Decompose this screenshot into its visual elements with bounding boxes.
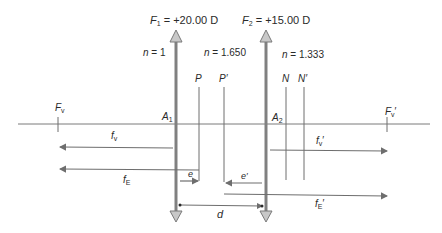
n-value: = 1 [149,47,166,58]
power-value: = +20.00 D [161,14,219,26]
back-focal-label: Fv′ [385,107,396,118]
d-label: d [217,209,223,220]
lens-1-top-arrowhead-icon [170,30,182,42]
power-symbol: F [150,14,157,26]
fv-prime-label: fv′ [316,136,324,147]
front-focal-label: Fv [55,103,65,114]
power-value: = +15.00 D [253,14,311,26]
power-symbol: F [242,14,249,26]
vertex-subscript: 1 [169,116,173,123]
label-P-prime: P′ [219,74,228,84]
lens-2-bottom-arrowhead-icon [260,211,272,222]
fE-prime-arrow [224,194,387,196]
n-middle-label: n = 1.650 [204,48,246,58]
vertex-A1-label: A1 [162,112,173,123]
fv-arrow [60,147,173,148]
lens-1-bottom-arrowhead-icon [170,211,182,222]
n-value: = 1.333 [288,49,324,60]
fv-label: fv [111,131,117,142]
n-value: = 1.650 [210,47,246,58]
n-right-label: n = 1.333 [282,50,324,60]
focal-prime: ′ [395,106,397,117]
vertex-subscript: 2 [279,117,283,124]
vertex-A2-label: A2 [272,113,283,124]
distance-subscript: v [114,135,118,142]
n-left-label: n = 1 [143,48,166,58]
vertex-symbol: A [162,111,169,122]
lens-2-top-arrowhead-icon [260,30,272,42]
fE-prime-label: fE′ [315,199,324,210]
distance-prime: ′ [322,135,324,146]
lens-1-power-label: F1 = +20.00 D [150,15,218,27]
label-N-prime: N′ [298,74,307,84]
fE-arrow [60,169,199,170]
d-arrow [180,205,262,206]
fv-prime-arrow [270,150,387,151]
thick-lens-diagram [0,0,442,233]
vertex-symbol: A [272,112,279,123]
e-label: e [188,170,193,179]
label-P: P [195,74,202,84]
lens-2-power-label: F2 = +15.00 D [242,15,310,27]
label-N: N [282,74,289,84]
distance-prime: ′ [322,198,324,209]
distance-subscript: E [126,179,131,186]
fE-label: fE [123,175,130,186]
e-prime-label: e′ [241,172,248,181]
focal-subscript: v [61,107,65,114]
